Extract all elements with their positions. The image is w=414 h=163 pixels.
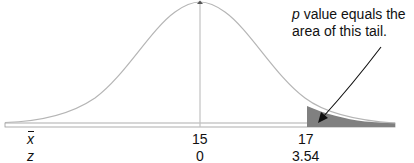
z-axis-label: z <box>27 148 34 163</box>
annotation-arrow <box>323 47 381 117</box>
z-mean-value: 0 <box>196 148 204 163</box>
p-symbol: p <box>292 6 300 22</box>
z-cutoff-value: 3.54 <box>292 148 319 163</box>
x-cutoff-value: 17 <box>298 131 314 147</box>
x-bar-axis-label: x <box>27 131 34 147</box>
annotation-line-1: p value equals the <box>292 6 406 23</box>
x-mean-value: 15 <box>192 131 208 147</box>
x-bar-symbol: x <box>27 131 34 147</box>
p-value-annotation: p value equals the area of this tail. <box>292 6 406 40</box>
annotation-line-2: area of this tail. <box>292 23 406 40</box>
annotation-line-1-text: value equals the <box>300 6 406 22</box>
